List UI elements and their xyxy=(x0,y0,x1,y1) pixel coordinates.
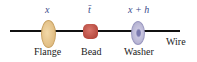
washer-label: Washer xyxy=(124,46,154,57)
flange-shape xyxy=(41,20,56,48)
washer-position-symbol: x + h xyxy=(128,4,149,15)
flange-position-symbol: x xyxy=(45,4,49,15)
washer-shape xyxy=(131,21,145,45)
bead-position-symbol: t̄ xyxy=(88,4,91,15)
bead-label: Bead xyxy=(81,46,102,57)
wire-label: Wire xyxy=(166,36,186,47)
flange-label: Flange xyxy=(34,46,61,57)
bead-shape xyxy=(83,24,98,39)
